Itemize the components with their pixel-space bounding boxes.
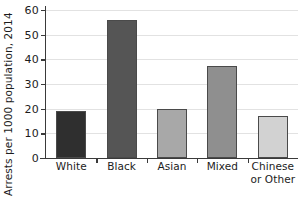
x-axis-labels: WhiteBlackAsianMixedChineseor Other	[46, 160, 298, 206]
x-axis-label-chinese-or-other: Chineseor Other	[240, 160, 305, 185]
y-tick-label: 50	[25, 28, 39, 41]
y-axis-title-text: Arrests per 1000 population, 2014	[2, 12, 14, 196]
bar-mixed	[207, 66, 237, 159]
y-tick-mark	[41, 10, 46, 11]
y-tick-mark	[41, 109, 46, 110]
y-axis-title: Arrests per 1000 population, 2014	[0, 0, 16, 200]
bar-chart: Arrests per 1000 population, 2014 010203…	[0, 0, 305, 208]
y-tick-label: 10	[25, 127, 39, 140]
y-tick-mark	[41, 158, 46, 159]
plot-area: 0102030405060	[46, 10, 298, 158]
bar-asian	[157, 109, 187, 158]
y-tick-label: 30	[25, 78, 39, 91]
y-tick-label: 60	[25, 4, 39, 17]
y-tick-mark	[41, 84, 46, 85]
y-axis-line	[45, 6, 46, 158]
cropped-title-fragment	[70, 0, 270, 2]
bar-white	[56, 111, 86, 158]
y-tick-mark	[41, 35, 46, 36]
x-axis-label-line: or Other	[240, 173, 305, 186]
x-axis-label-line: Chinese	[240, 160, 305, 173]
gridline	[46, 35, 298, 36]
y-tick-mark	[41, 59, 46, 60]
y-tick-label: 20	[25, 102, 39, 115]
bar-black	[107, 20, 137, 158]
gridline	[46, 59, 298, 60]
bar-chinese-or-other	[258, 116, 288, 158]
y-tick-label: 40	[25, 53, 39, 66]
gridline	[46, 84, 298, 85]
y-tick-mark	[41, 133, 46, 134]
gridline	[46, 10, 298, 11]
